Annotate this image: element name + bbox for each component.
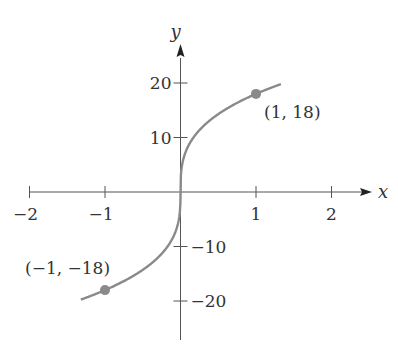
- y-axis-label: y: [169, 21, 181, 42]
- y-tick-label: 10: [150, 128, 172, 148]
- x-axis-label: x: [378, 181, 388, 202]
- data-point: [251, 89, 261, 99]
- point-label: (−1, −18): [25, 258, 110, 278]
- chart: xy−2−1122010−10−20(1, 18)(−1, −18): [0, 0, 398, 347]
- x-tick-label: 1: [251, 204, 262, 224]
- x-tick-label: −2: [13, 204, 38, 224]
- x-tick-label: −1: [88, 204, 113, 224]
- y-tick-label: 20: [150, 73, 172, 93]
- plot-area: xy−2−1122010−10−20(1, 18)(−1, −18): [0, 0, 398, 347]
- x-tick-label: 2: [326, 204, 337, 224]
- data-point: [100, 285, 110, 295]
- y-tick-label: −20: [191, 291, 227, 311]
- point-label: (1, 18): [264, 102, 321, 122]
- y-tick-label: −10: [191, 237, 227, 257]
- y-axis-arrow-icon: [177, 44, 185, 57]
